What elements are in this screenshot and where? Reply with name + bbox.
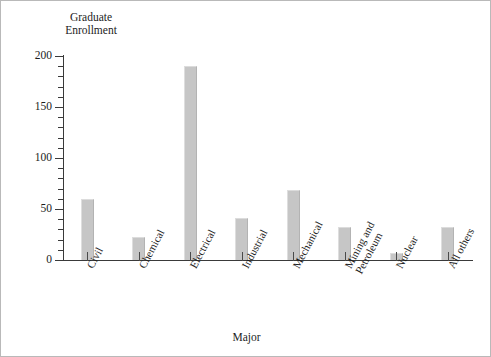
x-axis-title: Major [1,331,491,343]
bar [184,66,197,260]
bar-chart-figure: Graduate Enrollment 050100150200 CivilCh… [0,0,491,357]
bar-series [1,1,490,356]
